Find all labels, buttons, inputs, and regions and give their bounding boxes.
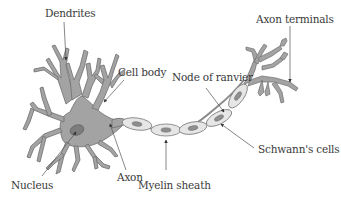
label-myelin-sheath: Myelin sheath bbox=[138, 180, 211, 191]
label-cell-body: Cell body bbox=[118, 67, 166, 78]
neuron-illustration bbox=[0, 0, 341, 207]
cell-body-shape bbox=[23, 45, 125, 174]
label-axon-terminals: Axon terminals bbox=[256, 14, 334, 25]
label-schwanns-cells: Schwann's cells bbox=[258, 144, 339, 155]
myelin-sheath-segments bbox=[121, 81, 251, 136]
label-dendrites: Dendrites bbox=[45, 8, 96, 19]
label-nucleus: Nucleus bbox=[11, 180, 53, 191]
label-node-of-ranvier: Node of ranvier bbox=[172, 72, 253, 83]
neuron-diagram: Dendrites Cell body Nucleus Axon Myelin … bbox=[0, 0, 341, 207]
